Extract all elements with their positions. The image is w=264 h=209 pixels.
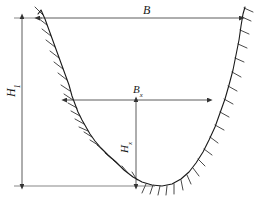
label-partial-depth-symbol: H [118, 145, 130, 153]
figure-canvas [0, 0, 264, 209]
label-partial-width-symbol: B [133, 83, 140, 95]
label-total-depth-symbol: H [4, 88, 18, 97]
ground-hatching [35, 7, 253, 195]
label-total-width-symbol: B [143, 3, 150, 17]
label-total-width: B [143, 4, 150, 19]
dimension-lines [22, 18, 239, 184]
label-partial-depth-subscript: x [126, 142, 133, 145]
label-partial-depth: Hx [119, 142, 133, 153]
valley-cross-section-figure: B Bx H1 Hx [0, 0, 264, 209]
label-total-depth: H1 [5, 85, 20, 97]
label-partial-width-subscript: x [140, 91, 143, 98]
extension-lines [14, 18, 155, 186]
label-partial-width: Bx [133, 84, 143, 98]
label-total-depth-subscript: 1 [13, 84, 22, 88]
